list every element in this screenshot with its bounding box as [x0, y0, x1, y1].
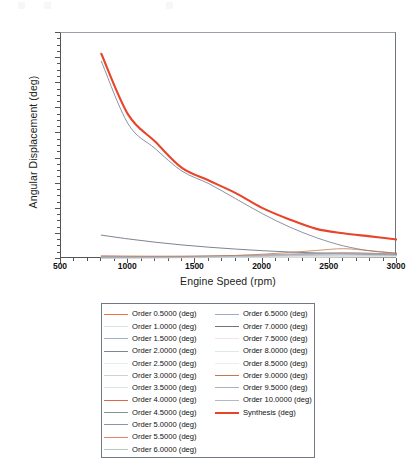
legend-swatch-line-icon: [215, 387, 239, 388]
legend-swatch-line-icon: [104, 326, 128, 327]
legend-item-label: Order 7.0000 (deg): [243, 323, 308, 331]
legend-item-label: Order 1.0000 (deg): [132, 323, 197, 331]
legend-item[interactable]: Order 5.5000 (deg): [102, 431, 213, 443]
legend-item[interactable]: Order 7.0000 (deg): [213, 320, 314, 332]
legend-swatch-line-icon: [104, 387, 128, 388]
legend-item-label: Order 9.0000 (deg): [243, 372, 308, 380]
legend-swatch-line-icon: [215, 326, 239, 327]
legend-item[interactable]: Order 1.5000 (deg): [102, 333, 213, 345]
legend-item-label: Order 0.5000 (deg): [132, 310, 197, 318]
legend-item[interactable]: Order 3.0000 (deg): [102, 369, 213, 381]
x-tick-label: 3000: [371, 261, 416, 271]
legend-swatch-line-icon: [104, 437, 128, 438]
legend-column-right: Order 6.5000 (deg)Order 7.0000 (deg)Orde…: [213, 308, 314, 456]
legend-box: Order 0.5000 (deg)Order 1.0000 (deg)Orde…: [101, 303, 315, 458]
legend-item-label: Order 4.0000 (deg): [132, 396, 197, 404]
legend-item-label: Order 8.0000 (deg): [243, 347, 308, 355]
legend-swatch-line-icon: [104, 314, 128, 315]
legend-item-label: Order 6.5000 (deg): [243, 310, 308, 318]
legend-swatch-line-icon: [104, 400, 128, 401]
legend-item[interactable]: Order 6.0000 (deg): [102, 443, 213, 455]
scan-artifact: [44, 2, 51, 9]
legend-item[interactable]: Order 9.5000 (deg): [213, 382, 314, 394]
legend-item[interactable]: Order 4.5000 (deg): [102, 406, 213, 418]
legend-item-label: Order 3.5000 (deg): [132, 384, 197, 392]
scan-artifact: [18, 2, 25, 9]
legend-item-label: Order 4.5000 (deg): [132, 409, 197, 417]
legend-item-label: Order 10.0000 (deg): [243, 396, 312, 404]
x-axis-title: Engine Speed (rpm): [60, 275, 396, 287]
legend-item[interactable]: Order 6.5000 (deg): [213, 308, 314, 320]
legend-item-label: Order 8.5000 (deg): [243, 360, 308, 368]
legend-item[interactable]: Order 7.5000 (deg): [213, 333, 314, 345]
series-line: [101, 54, 397, 240]
legend-item[interactable]: Order 2.5000 (deg): [102, 357, 213, 369]
legend-item-label: Order 2.5000 (deg): [132, 360, 197, 368]
legend-item-label: Order 5.5000 (deg): [132, 433, 197, 441]
legend-item[interactable]: Order 8.5000 (deg): [213, 357, 314, 369]
series-lines: [61, 33, 397, 259]
legend-swatch-line-icon: [215, 338, 239, 339]
legend-item[interactable]: Synthesis (deg): [213, 406, 314, 418]
legend-item[interactable]: Order 1.0000 (deg): [102, 320, 213, 332]
legend-swatch-line-icon: [215, 351, 239, 352]
scan-artifact: [166, 2, 173, 9]
legend-item-label: Order 3.0000 (deg): [132, 372, 197, 380]
legend-item[interactable]: Order 10.0000 (deg): [213, 394, 314, 406]
legend-item[interactable]: Order 8.0000 (deg): [213, 345, 314, 357]
legend-item[interactable]: Order 4.0000 (deg): [102, 394, 213, 406]
legend-swatch-line-icon: [104, 449, 128, 450]
y-axis-title: Angular Displacement (deg): [27, 42, 39, 242]
legend-swatch-line-icon: [104, 424, 128, 425]
legend-swatch-line-icon: [215, 314, 239, 315]
legend-swatch-line-icon: [215, 363, 239, 364]
legend-swatch-line-icon: [215, 375, 239, 376]
legend-item-label: Order 1.5000 (deg): [132, 335, 197, 343]
legend-item-label: Order 2.0000 (deg): [132, 347, 197, 355]
legend-item[interactable]: Order 5.0000 (deg): [102, 419, 213, 431]
legend-item-label: Synthesis (deg): [243, 409, 296, 417]
legend-column-left: Order 0.5000 (deg)Order 1.0000 (deg)Orde…: [102, 308, 213, 456]
legend-item[interactable]: Order 0.5000 (deg): [102, 308, 213, 320]
legend-item-label: Order 5.0000 (deg): [132, 421, 197, 429]
legend-item-label: Order 6.0000 (deg): [132, 446, 197, 454]
series-line: [101, 235, 397, 254]
series-line: [101, 61, 397, 253]
legend-swatch-line-icon: [104, 375, 128, 376]
figure-canvas: Angular Displacement (deg) Engine Speed …: [0, 0, 416, 472]
legend-item-label: Order 7.5000 (deg): [243, 335, 308, 343]
legend-swatch-line-icon: [104, 412, 128, 413]
legend-item-label: Order 9.5000 (deg): [243, 384, 308, 392]
legend-item[interactable]: Order 9.0000 (deg): [213, 369, 314, 381]
plot-area: [60, 32, 396, 258]
legend-swatch-line-icon: [104, 338, 128, 339]
legend-swatch-line-icon: [104, 363, 128, 364]
legend-swatch-line-icon: [215, 400, 239, 401]
legend-item[interactable]: Order 2.0000 (deg): [102, 345, 213, 357]
legend-swatch-line-icon: [215, 412, 239, 414]
legend-swatch-line-icon: [104, 351, 128, 352]
legend-item[interactable]: Order 3.5000 (deg): [102, 382, 213, 394]
